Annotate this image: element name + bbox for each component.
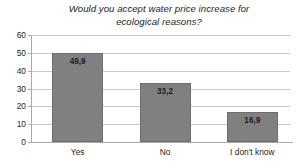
x-axis-line [31,142,293,143]
bar-value-label: 33,2 [141,87,190,96]
y-axis-label: 0 [21,137,26,147]
bar: 33,2 [140,83,191,142]
y-tick-mark [28,71,31,72]
bar-value-label: 49,9 [53,57,102,66]
category-label: No [121,147,208,157]
y-axis-label: 10 [17,119,26,129]
y-tick-mark [28,106,31,107]
y-tick-mark [28,53,31,54]
y-axis-label: 60 [17,30,26,40]
category-label: I don't know [209,147,296,157]
y-axis-label: 30 [17,84,26,94]
gridline [32,35,290,36]
plot-area: 6050403020100 49,933,216,9 YesNoI don't … [31,35,293,143]
bar: 49,9 [52,53,103,142]
y-axis-label: 20 [17,101,26,111]
y-tick-mark [28,35,31,36]
bar-chart: Would you accept water price increase fo… [0,0,304,164]
y-axis-label: 40 [17,66,26,76]
category-label: Yes [34,147,121,157]
bar-value-label: 16,9 [228,116,277,125]
y-tick-mark [28,142,31,143]
chart-title: Would you accept water price increase fo… [34,3,284,28]
y-axis-label: 50 [17,48,26,58]
y-tick-mark [28,124,31,125]
y-tick-mark [28,89,31,90]
bar: 16,9 [227,112,278,142]
